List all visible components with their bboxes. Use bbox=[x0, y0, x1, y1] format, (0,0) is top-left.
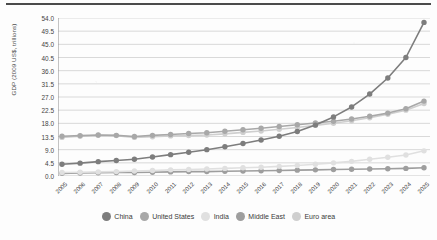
legend-item[interactable]: Middle East bbox=[236, 212, 285, 221]
x-tick-label: 2009 bbox=[119, 181, 140, 202]
x-tick-label: 2015 bbox=[228, 181, 249, 202]
legend-item[interactable]: China bbox=[102, 212, 133, 221]
legend-label: United States bbox=[152, 213, 194, 220]
x-tick-label: 2025 bbox=[409, 181, 430, 202]
x-tick-label: 2010 bbox=[138, 181, 159, 202]
legend-swatch-icon bbox=[102, 212, 111, 221]
x-tick-label: 2005 bbox=[47, 181, 68, 202]
legend-swatch-icon bbox=[236, 212, 245, 221]
legend-label: Euro area bbox=[304, 213, 335, 220]
legend-label: China bbox=[114, 213, 132, 220]
x-axis-tick-labels: 2005200620072008200920102011201220132014… bbox=[0, 0, 437, 240]
x-tick-label: 2019 bbox=[300, 181, 321, 202]
legend-swatch-icon bbox=[201, 212, 210, 221]
legend-swatch-icon bbox=[140, 212, 149, 221]
legend-item[interactable]: India bbox=[201, 212, 229, 221]
x-tick-label: 2020 bbox=[319, 181, 340, 202]
legend-label: India bbox=[214, 213, 229, 220]
legend-swatch-icon bbox=[292, 212, 301, 221]
legend-item[interactable]: Euro area bbox=[292, 212, 335, 221]
gdp-projection-chart: GDP (2009 US$, trillions) 0.04.59.013.51… bbox=[0, 0, 437, 240]
legend-item[interactable]: United States bbox=[140, 212, 195, 221]
chart-legend: ChinaUnited StatesIndiaMiddle EastEuro a… bbox=[0, 212, 437, 221]
legend-label: Middle East bbox=[248, 213, 285, 220]
